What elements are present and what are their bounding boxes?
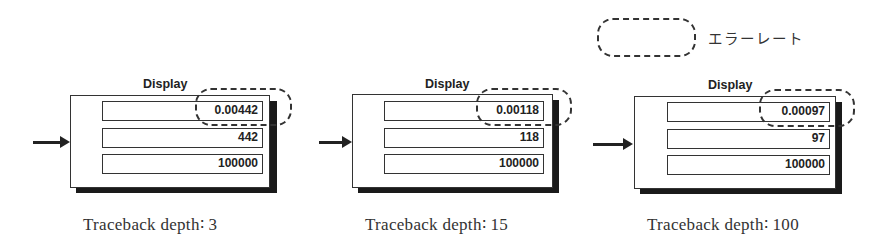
total-bits-field: 100000 <box>102 154 263 174</box>
arrow-head-icon <box>60 136 70 148</box>
error-rate-highlight <box>759 89 855 127</box>
input-arrow-icon <box>319 141 343 144</box>
traceback-depth-caption: Traceback depth∶ 3 <box>83 214 217 235</box>
error-rate-highlight <box>476 88 572 126</box>
display-label: Display <box>425 77 469 91</box>
legend-label: エラーレート <box>708 27 804 48</box>
total-bits-field: 100000 <box>667 155 830 175</box>
total-bits-field: 100000 <box>384 154 544 174</box>
arrow-head-icon <box>623 138 633 150</box>
traceback-depth-caption: Traceback depth∶ 100 <box>647 214 799 235</box>
legend-dashed-outline-icon <box>597 18 696 57</box>
error-count-field: 97 <box>667 129 830 149</box>
display-label: Display <box>708 78 752 92</box>
error-count-field: 118 <box>384 128 544 148</box>
arrow-head-icon <box>342 136 352 148</box>
display-label: Display <box>143 77 187 91</box>
diagram: エラーレート Display 0.00442 442 100000 Traceb… <box>0 0 887 252</box>
input-arrow-icon <box>33 141 61 144</box>
error-count-field: 442 <box>102 128 263 148</box>
traceback-depth-caption: Traceback depth∶ 15 <box>365 214 508 235</box>
input-arrow-icon <box>593 143 624 146</box>
error-rate-highlight <box>195 88 292 126</box>
